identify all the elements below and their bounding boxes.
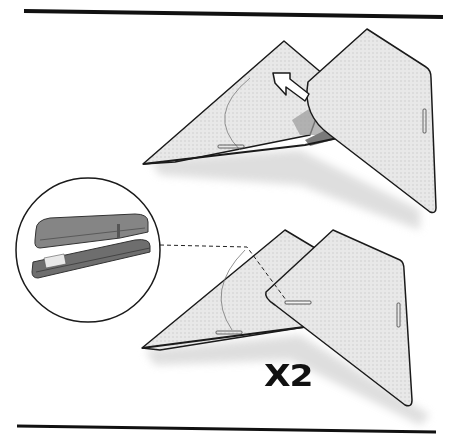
- top-divider-rule: [24, 11, 443, 17]
- instruction-diagram: X2: [0, 0, 463, 444]
- bottom-divider-rule: [17, 426, 436, 432]
- repeat-count-label: X2: [264, 358, 312, 393]
- staple-mark: [285, 301, 311, 304]
- stapler-callout: [16, 178, 160, 322]
- step-staple: [142, 230, 430, 425]
- step-fold: [143, 29, 436, 230]
